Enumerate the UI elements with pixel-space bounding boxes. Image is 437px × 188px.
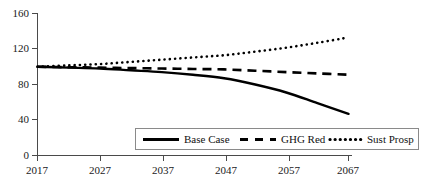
x-tick-label: 2017 xyxy=(26,164,49,176)
x-tick-label: 2067 xyxy=(337,164,360,176)
chart-container: 160 120 80 40 0 2017 2027 2037 2047 2057… xyxy=(0,0,437,188)
x-axis-tick-labels: 2017 2027 2037 2047 2057 2067 xyxy=(26,164,360,176)
legend: Base Case GHG Red Sust Prosp xyxy=(136,129,419,150)
series-group xyxy=(38,37,349,113)
y-axis-ticks xyxy=(32,14,38,156)
x-tick-label: 2057 xyxy=(278,164,301,176)
series-line-sust-prosp xyxy=(38,37,349,66)
y-tick-label: 80 xyxy=(18,78,30,90)
line-chart: 160 120 80 40 0 2017 2027 2037 2047 2057… xyxy=(0,0,437,188)
x-tick-label: 2037 xyxy=(152,164,175,176)
y-tick-label: 0 xyxy=(24,149,30,161)
y-tick-label: 40 xyxy=(18,113,30,125)
y-tick-label: 120 xyxy=(13,42,30,54)
y-axis-tick-labels: 160 120 80 40 0 xyxy=(13,7,30,161)
legend-label: Sust Prosp xyxy=(367,133,414,145)
x-tick-label: 2027 xyxy=(89,164,112,176)
x-axis-ticks xyxy=(38,156,349,162)
y-tick-label: 160 xyxy=(13,7,30,19)
x-tick-label: 2047 xyxy=(215,164,238,176)
series-line-base-case xyxy=(38,67,349,114)
legend-label: GHG Red xyxy=(281,133,326,145)
legend-label: Base Case xyxy=(184,133,230,145)
